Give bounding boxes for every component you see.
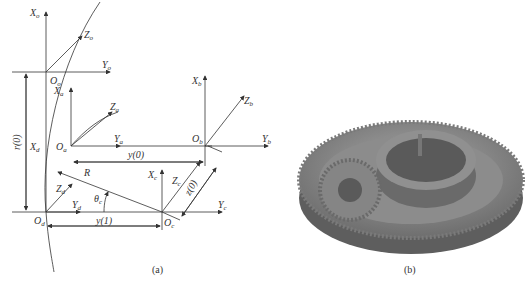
svg-text:Ya: Ya	[114, 133, 124, 146]
svg-text:Zb: Zb	[244, 95, 254, 108]
theta-arc	[104, 192, 108, 212]
coordinate-frame-diagram: Xo Zo Yo Oo Xa Za Ya Oa Xb Zb Yb Ob Xc Z…	[0, 0, 290, 289]
planetary-gear-render	[290, 80, 532, 260]
svg-text:y(0): y(0)	[127, 149, 145, 161]
svg-text:θc: θc	[94, 193, 103, 206]
svg-text:Oa: Oa	[56, 141, 67, 154]
axis-zb	[205, 96, 244, 146]
svg-text:Zc: Zc	[172, 175, 182, 188]
svg-text:Yd: Yd	[72, 199, 82, 212]
svg-text:Yb: Yb	[262, 133, 272, 146]
helix-curve	[71, 112, 118, 146]
pitch-circle-arc	[45, 2, 100, 272]
caption-a: (a)	[152, 264, 163, 275]
svg-text:Yo: Yo	[102, 59, 112, 72]
svg-text:Oc: Oc	[164, 217, 175, 230]
svg-text:Ob: Ob	[192, 133, 203, 146]
svg-text:Zo: Zo	[84, 29, 94, 42]
svg-text:Yc: Yc	[218, 199, 228, 212]
svg-text:Od: Od	[34, 215, 45, 228]
svg-text:R: R	[83, 167, 90, 178]
caption-b: (b)	[404, 264, 416, 275]
svg-text:Xo: Xo	[29, 7, 40, 20]
svg-text:Xb: Xb	[191, 75, 202, 88]
svg-text:Zd: Zd	[56, 183, 66, 196]
svg-text:r(0): r(0)	[11, 134, 23, 150]
svg-text:Xd: Xd	[29, 141, 40, 154]
axis-zo	[46, 36, 82, 72]
svg-text:Xc: Xc	[147, 169, 158, 182]
svg-text:z(0): z(0)	[182, 177, 201, 198]
svg-text:y(1): y(1)	[95, 215, 113, 227]
